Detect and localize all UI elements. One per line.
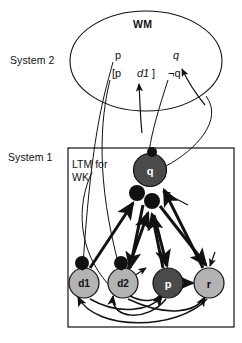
- dot-q-top-icon: [147, 147, 157, 157]
- ltm-for-wk-label: LTM forWK: [72, 158, 107, 183]
- dot-q-mid-icon: [144, 193, 160, 209]
- edge-q-to-r: [160, 206, 206, 265]
- wm-negated-q: ¬q: [168, 68, 181, 79]
- working-memory-title: WM: [133, 19, 152, 30]
- edge-r-to-q: [164, 190, 203, 268]
- arrow-to-bracket: [139, 84, 142, 133]
- ltm-line-2: WK: [72, 171, 107, 184]
- node-group-q[interactable]: q: [134, 154, 167, 187]
- connector-notq-to-q-node: [149, 80, 168, 152]
- wm-bracket-open: [p: [112, 68, 121, 79]
- feedback-arcs: [78, 294, 207, 323]
- node-group-d2[interactable]: d2: [108, 268, 138, 298]
- system2-label: System 2: [10, 55, 55, 66]
- wm-disabler-d1: d1: [137, 68, 149, 79]
- edge-d1-to-q: [90, 203, 133, 268]
- node-r-label: r: [207, 278, 212, 290]
- wm-proposition-p: p: [115, 50, 121, 61]
- node-d2-label: d2: [117, 278, 129, 289]
- connector-q-node-to-wm-right: [166, 96, 212, 166]
- dot-q-left-icon: [129, 185, 145, 201]
- stem-d2: [121, 269, 122, 270]
- figure-canvas: q d1 d2 p r: [0, 0, 242, 343]
- node-group-d1[interactable]: d1: [69, 268, 99, 298]
- network-edges-from-q: [130, 205, 206, 268]
- wm-proposition-q: q: [173, 50, 179, 61]
- ltm-line-1: LTM for: [72, 158, 107, 171]
- wm-bracket-close: ]: [152, 68, 155, 79]
- node-q-label: q: [147, 165, 154, 177]
- node-group-r[interactable]: r: [194, 268, 224, 298]
- node-p-label: p: [165, 278, 172, 290]
- stem-d1: [82, 269, 83, 270]
- node-d1-label: d1: [78, 278, 90, 289]
- dot-d2-icon: [114, 256, 128, 270]
- arc-d2-to-p-short: [130, 294, 161, 300]
- node-group-p[interactable]: p: [153, 268, 183, 298]
- system1-label: System 1: [8, 152, 53, 163]
- dot-d1-icon: [75, 256, 89, 270]
- arrow-into-r-top: [210, 252, 215, 266]
